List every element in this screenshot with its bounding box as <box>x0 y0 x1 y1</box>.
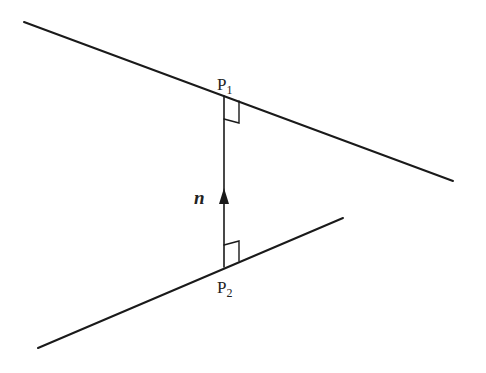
skew-lines-diagram: P1 P2 n <box>0 0 486 373</box>
diagram-canvas: P1 P2 n <box>0 0 486 373</box>
label-p2: P2 <box>217 278 232 300</box>
label-vector-n: n <box>194 187 205 208</box>
right-angle-marker-bottom <box>224 241 239 261</box>
label-p1: P1 <box>217 75 232 97</box>
lower-line <box>38 218 343 348</box>
right-angle-marker-top <box>224 101 239 123</box>
arrow-head-icon <box>219 188 229 204</box>
